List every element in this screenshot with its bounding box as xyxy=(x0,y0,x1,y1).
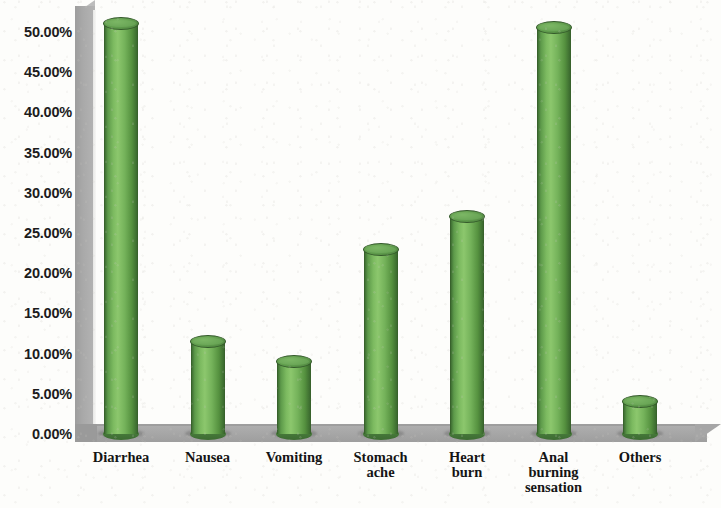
chart-plot-area: 0.00%5.00%10.00%15.00%20.00%25.00%30.00%… xyxy=(0,0,721,508)
bar-body xyxy=(364,249,398,434)
bar-top-rim xyxy=(279,358,309,365)
y-axis-tick-label: 40.00% xyxy=(0,105,72,120)
y-axis-tick-label: 35.00% xyxy=(0,145,72,160)
bar-3 xyxy=(277,362,311,434)
y-axis-tick-label: 15.00% xyxy=(0,306,72,321)
bar-top-rim xyxy=(366,246,396,253)
y-axis-tick-label: 45.00% xyxy=(0,65,72,80)
bar-body xyxy=(191,342,225,434)
left-wall xyxy=(75,6,95,438)
bar-2 xyxy=(191,342,225,434)
bar-top-rim xyxy=(193,338,223,345)
bar-4 xyxy=(364,249,398,434)
bar-6 xyxy=(537,28,571,434)
bar-top-ellipse xyxy=(363,243,399,256)
y-axis-tick-label: 50.00% xyxy=(0,25,72,40)
bar-7 xyxy=(623,402,657,434)
bar-body xyxy=(537,28,571,434)
bar-top-rim xyxy=(452,213,482,220)
y-axis-tick-label: 25.00% xyxy=(0,226,72,241)
bar-top-ellipse xyxy=(190,335,226,348)
bar-1 xyxy=(104,24,138,434)
y-axis-tick-label: 5.00% xyxy=(0,387,72,402)
bar-body xyxy=(277,362,311,434)
y-axis-tick-label: 0.00% xyxy=(0,427,72,442)
wall-floor-corner xyxy=(75,424,97,442)
bar-top-rim xyxy=(625,398,655,405)
bar-5 xyxy=(450,217,484,434)
y-axis-tick-label: 10.00% xyxy=(0,346,72,361)
bar-top-rim xyxy=(106,20,136,27)
wall-inner-edge xyxy=(93,10,96,438)
bar-top-rim xyxy=(539,24,569,31)
bar-body xyxy=(450,217,484,434)
y-axis-tick-label: 30.00% xyxy=(0,186,72,201)
x-axis-label-7: Others xyxy=(585,450,695,465)
bar-body xyxy=(104,24,138,434)
y-axis-tick-label: 20.00% xyxy=(0,266,72,281)
chart-screenshot: 0.00%5.00%10.00%15.00%20.00%25.00%30.00%… xyxy=(0,0,721,508)
